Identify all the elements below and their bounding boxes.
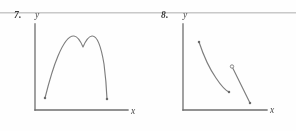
curve-endpoint-left-7 [44,97,47,100]
curve-endpoint-lower-8 [228,91,231,94]
curve-endpoint-right-7 [106,98,109,101]
line-segment-8 [233,68,250,102]
worksheet-page: 7. y x 8. y x [0,0,296,131]
curve-double-hump-7 [45,36,107,99]
figure-problem-7: 7. y x [0,0,148,131]
segment-endpoint-open-8 [230,65,233,68]
plot-area-7 [0,0,148,131]
curve-decreasing-8 [199,42,229,92]
segment-endpoint-filled-8 [249,102,252,105]
figure-problem-8: 8. y x [148,0,296,131]
curve-endpoint-upper-8 [198,41,201,44]
plot-area-8 [148,0,296,131]
